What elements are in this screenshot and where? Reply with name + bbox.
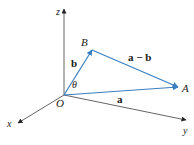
point-b-label: B — [81, 36, 88, 48]
y-axis — [64, 95, 186, 120]
diagram-canvas: z x y O B A b a a − b θ — [0, 0, 194, 145]
angle-theta-label: θ — [72, 79, 77, 90]
y-axis-label: y — [182, 125, 188, 136]
vector-diagram: z x y O B A b a a − b θ — [0, 0, 194, 145]
vector-a-minus-b-label: a − b — [128, 51, 151, 63]
vector-b-label: b — [71, 57, 77, 69]
x-axis-label: x — [6, 118, 12, 129]
point-a-label: A — [181, 82, 189, 94]
vector-a-label: a — [117, 93, 123, 105]
vector-b — [64, 50, 92, 95]
origin-label: O — [56, 97, 64, 109]
z-axis-label: z — [55, 6, 60, 17]
